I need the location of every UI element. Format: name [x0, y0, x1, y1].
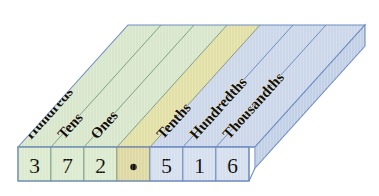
front-face-grain: [18, 147, 249, 181]
place-value-chart-svg: 3 7 2 5 1: [0, 0, 379, 196]
digit-cell-row: 3 7 2 5 1: [18, 147, 255, 181]
front-bottom-joint: [249, 168, 255, 181]
place-value-chart-figure: 3 7 2 5 1: [0, 0, 379, 196]
